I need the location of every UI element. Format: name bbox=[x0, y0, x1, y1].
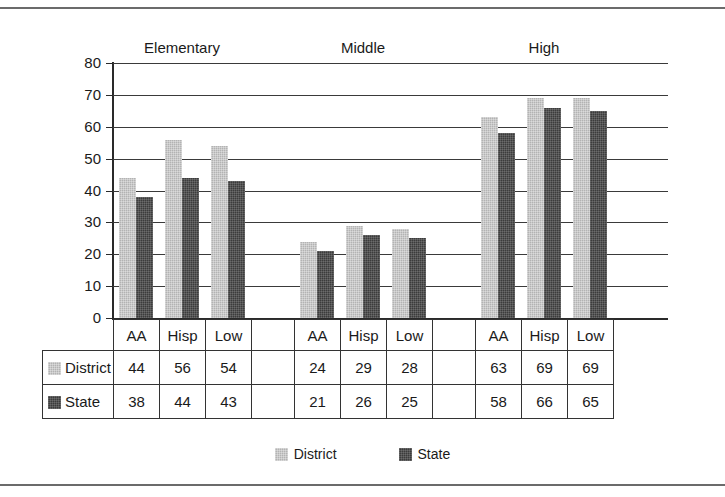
table-row-label-state: State bbox=[43, 385, 114, 419]
y-tick-label-10: 10 bbox=[55, 278, 101, 293]
table-cell-value: 29 bbox=[341, 351, 387, 385]
y-tick-label-30: 30 bbox=[55, 214, 101, 229]
legend-label: District bbox=[294, 447, 337, 461]
table-cell-spacer bbox=[433, 351, 476, 385]
bottom-divider-rule bbox=[0, 484, 725, 486]
table-cell-value: 38 bbox=[114, 385, 160, 419]
bar-state-middle-hisp bbox=[363, 235, 380, 318]
bar-state-middle-aa bbox=[317, 251, 334, 318]
legend-label: State bbox=[418, 447, 451, 461]
plot-area bbox=[113, 63, 668, 318]
chart-legend: DistrictState bbox=[0, 447, 725, 461]
y-tick-mark-40 bbox=[106, 191, 113, 192]
table-row-label-text: District bbox=[65, 359, 111, 376]
table-cell-value: 26 bbox=[341, 385, 387, 419]
table-row-label-district: District bbox=[43, 351, 114, 385]
table-cell-value: 44 bbox=[114, 351, 160, 385]
bar-district-elementary-low bbox=[211, 146, 228, 318]
y-tick-label-60: 60 bbox=[55, 119, 101, 134]
legend-swatch-icon-district bbox=[275, 448, 288, 461]
table-cell-value: 65 bbox=[568, 385, 614, 419]
table-header-hisp: Hisp bbox=[160, 320, 206, 351]
table-cell-spacer bbox=[252, 351, 295, 385]
table-header-low: Low bbox=[568, 320, 614, 351]
table-header-aa: AA bbox=[295, 320, 341, 351]
y-tick-label-40: 40 bbox=[55, 183, 101, 198]
y-tick-label-70: 70 bbox=[55, 87, 101, 102]
table-cell-value: 21 bbox=[295, 385, 341, 419]
gridline-80 bbox=[113, 63, 668, 64]
bar-state-middle-low bbox=[409, 238, 426, 318]
gridline-70 bbox=[113, 95, 668, 96]
bar-district-middle-low bbox=[392, 229, 409, 318]
table-cell-value: 69 bbox=[522, 351, 568, 385]
table-cell-value: 44 bbox=[160, 385, 206, 419]
table-header-hisp: Hisp bbox=[522, 320, 568, 351]
bar-state-high-hisp bbox=[544, 108, 561, 318]
data-table: AAHispLowAAHispLowAAHispLowDistrict44565… bbox=[42, 319, 614, 419]
table-row-label-text: State bbox=[65, 393, 100, 410]
series-swatch-icon-district bbox=[48, 362, 61, 375]
bar-district-elementary-aa bbox=[119, 178, 136, 318]
table-cell-value: 66 bbox=[522, 385, 568, 419]
bar-state-elementary-low bbox=[228, 181, 245, 318]
y-tick-mark-20 bbox=[106, 254, 113, 255]
table-row: State384443212625586665 bbox=[43, 385, 614, 419]
table-cell-value: 56 bbox=[160, 351, 206, 385]
group-label-high: High bbox=[438, 40, 650, 56]
table-header-aa: AA bbox=[476, 320, 522, 351]
y-tick-mark-30 bbox=[106, 222, 113, 223]
y-tick-mark-50 bbox=[106, 159, 113, 160]
table-header-spacer bbox=[433, 320, 476, 351]
bar-district-middle-aa bbox=[300, 242, 317, 319]
table-header-spacer bbox=[252, 320, 295, 351]
legend-item-district: District bbox=[275, 447, 337, 461]
table-header-aa: AA bbox=[114, 320, 160, 351]
table-cell-value: 58 bbox=[476, 385, 522, 419]
y-tick-label-20: 20 bbox=[55, 246, 101, 261]
bar-state-high-aa bbox=[498, 133, 515, 318]
table-header-corner bbox=[43, 320, 114, 351]
y-tick-label-80: 80 bbox=[55, 55, 101, 70]
table-cell-value: 63 bbox=[476, 351, 522, 385]
table-cell-value: 24 bbox=[295, 351, 341, 385]
table-header-low: Low bbox=[387, 320, 433, 351]
bar-state-high-low bbox=[590, 111, 607, 318]
bar-state-elementary-aa bbox=[136, 197, 153, 318]
table-cell-value: 25 bbox=[387, 385, 433, 419]
table-cell-value: 43 bbox=[206, 385, 252, 419]
bar-state-elementary-hisp bbox=[182, 178, 199, 318]
chart-page: ElementaryMiddleHigh 80706050403020100 A… bbox=[0, 0, 725, 497]
table-header-hisp: Hisp bbox=[341, 320, 387, 351]
top-divider-rule bbox=[0, 7, 725, 9]
series-swatch-icon-state bbox=[48, 396, 61, 409]
y-tick-mark-80 bbox=[106, 63, 113, 64]
table-cell-spacer bbox=[433, 385, 476, 419]
table-cell-value: 69 bbox=[568, 351, 614, 385]
bar-district-high-aa bbox=[481, 117, 498, 318]
table-cell-value: 28 bbox=[387, 351, 433, 385]
y-tick-mark-70 bbox=[106, 95, 113, 96]
bar-district-high-hisp bbox=[527, 98, 544, 318]
bar-district-elementary-hisp bbox=[165, 140, 182, 319]
table-header-low: Low bbox=[206, 320, 252, 351]
table-row: District445654242928636969 bbox=[43, 351, 614, 385]
y-tick-mark-60 bbox=[106, 127, 113, 128]
table-header-row: AAHispLowAAHispLowAAHispLow bbox=[43, 320, 614, 351]
bar-district-middle-hisp bbox=[346, 226, 363, 318]
legend-item-state: State bbox=[399, 447, 451, 461]
table-cell-value: 54 bbox=[206, 351, 252, 385]
y-tick-mark-10 bbox=[106, 286, 113, 287]
y-tick-label-50: 50 bbox=[55, 151, 101, 166]
bar-district-high-low bbox=[573, 98, 590, 318]
legend-swatch-icon-state bbox=[399, 448, 412, 461]
table-cell-spacer bbox=[252, 385, 295, 419]
